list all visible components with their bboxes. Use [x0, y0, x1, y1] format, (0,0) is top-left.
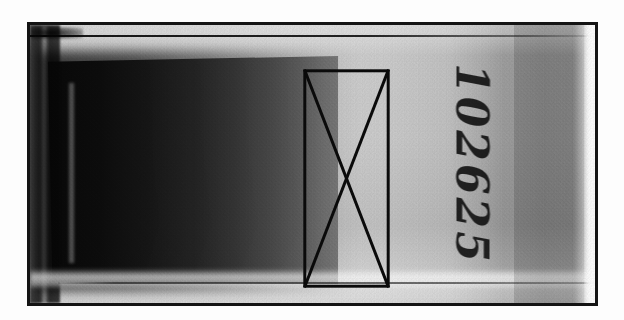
- bright-band-bottom: [30, 269, 595, 287]
- label-panel: [514, 25, 586, 303]
- film-frame: 102625: [27, 22, 598, 306]
- corner-smudge-mark: [31, 27, 83, 39]
- registration-line-top: [30, 35, 595, 37]
- exposed-dark-wedge: [48, 56, 338, 284]
- right-white-edge: [584, 25, 595, 303]
- wedge-seam-line: [69, 83, 74, 263]
- radiograph-figure: 102625: [0, 0, 624, 320]
